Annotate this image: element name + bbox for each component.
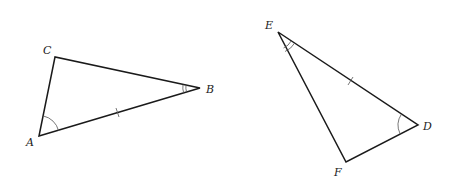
vertex-label-b: B bbox=[205, 83, 214, 96]
vertex-label-c: C bbox=[43, 44, 52, 57]
angle-d-arc bbox=[398, 114, 401, 134]
congruent-triangles-diagram: A B C D E F bbox=[0, 0, 455, 184]
triangle-abc: A B C bbox=[25, 44, 214, 149]
triangle-def: D E F bbox=[264, 19, 432, 179]
vertex-label-d: D bbox=[422, 120, 432, 133]
angle-b-arc-outer bbox=[183, 85, 184, 93]
angle-a-arc bbox=[44, 116, 59, 131]
angle-b-arc-inner bbox=[186, 85, 187, 92]
triangle-abc-outline bbox=[39, 57, 200, 136]
vertex-label-f: F bbox=[333, 166, 342, 179]
vertex-label-e: E bbox=[264, 19, 273, 32]
triangle-def-outline bbox=[278, 32, 418, 162]
vertex-label-a: A bbox=[25, 136, 34, 149]
